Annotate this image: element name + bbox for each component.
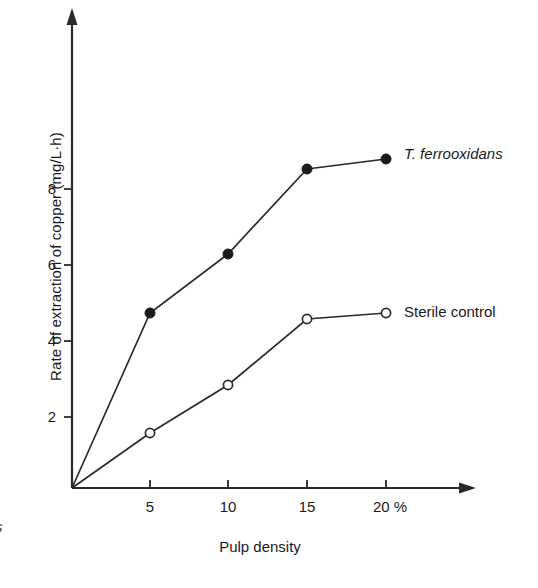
data-point-filled <box>145 308 155 318</box>
series-t-ferrooxidans <box>72 154 391 488</box>
data-point-filled <box>223 249 233 259</box>
series-sterile-control-line <box>72 313 386 488</box>
line-chart-plot <box>0 0 538 588</box>
series-label-sterile-control: Sterile control <box>404 303 496 320</box>
data-point-open <box>381 308 390 317</box>
x-axis-title: Pulp density <box>160 538 360 555</box>
data-point-filled <box>302 164 312 174</box>
y-axis-title: Rate of extraction of copper (mg/L·h) <box>47 92 64 422</box>
series-label-t-ferrooxidans: T. ferrooxidans <box>404 145 503 162</box>
x-axis <box>72 483 476 494</box>
data-point-open <box>223 380 232 389</box>
series-t-ferrooxidans-line <box>72 159 386 488</box>
x-tick-marks <box>150 480 386 488</box>
series-sterile-control <box>72 308 391 488</box>
y-axis <box>67 8 78 488</box>
y-axis-arrow-icon <box>67 8 78 25</box>
figure-container: 8 6 4 2 5 10 15 20 % Rate of extraction … <box>0 0 538 588</box>
caption-fragment: s <box>0 518 3 535</box>
data-point-open <box>145 428 154 437</box>
data-point-filled <box>381 154 391 164</box>
x-tick-label-10: 10 <box>198 498 258 515</box>
x-tick-label-5: 5 <box>120 498 180 515</box>
data-point-open <box>302 314 311 323</box>
x-tick-label-15: 15 <box>277 498 337 515</box>
x-axis-arrow-icon <box>459 483 476 494</box>
x-tick-label-20-percent: 20 % <box>360 498 420 515</box>
y-tick-marks <box>64 189 72 417</box>
